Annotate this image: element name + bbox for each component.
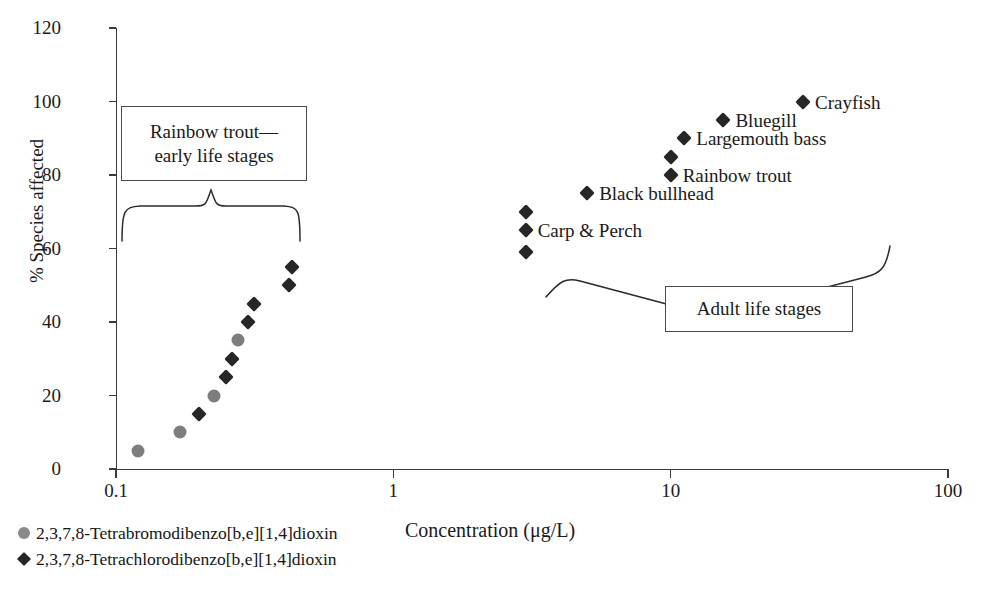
data-point-diamond: [518, 204, 534, 220]
y-axis-tick-mark: [109, 395, 116, 396]
data-point-diamond: [284, 259, 300, 275]
callout-early-life-stages: Rainbow trout— early life stages: [121, 106, 307, 181]
x-axis-tick-label: 100: [913, 481, 983, 501]
data-point-diamond: [241, 314, 257, 330]
species-label: Black bullhead: [599, 184, 714, 203]
species-label: Crayfish: [815, 92, 880, 111]
y-axis-title: % Species affected: [26, 96, 48, 326]
callout-early-line1: Rainbow trout—: [150, 120, 278, 144]
data-point-diamond: [579, 186, 595, 202]
callout-adult-life-stages: Adult life stages: [665, 286, 853, 332]
data-point-diamond: [219, 369, 235, 385]
data-point-diamond: [663, 167, 679, 183]
data-point-diamond: [795, 94, 811, 110]
species-label: Largemouth bass: [696, 129, 826, 148]
callout-adult-line1: Adult life stages: [697, 297, 822, 321]
data-point-circle: [231, 334, 244, 347]
x-axis-tick-label: 0.1: [81, 481, 151, 501]
data-point-diamond: [246, 296, 262, 312]
y-axis-tick-label: 20: [15, 386, 61, 405]
data-point-diamond: [192, 406, 208, 422]
legend-item: 2,3,7,8-Tetrabromodibenzo[b,e][1,4]dioxi…: [12, 520, 338, 546]
data-point-diamond: [518, 244, 534, 260]
x-axis-title: Concentration (μg/L): [405, 519, 575, 542]
data-point-circle: [131, 444, 144, 457]
x-axis-tick-mark: [393, 470, 394, 478]
y-axis-tick-label: 0: [15, 459, 61, 478]
y-axis-tick-label: 120: [15, 18, 61, 37]
legend-marker-circle-icon: [12, 527, 36, 539]
x-axis-tick-mark: [115, 470, 116, 478]
data-point-diamond: [224, 351, 240, 367]
data-point-diamond: [281, 277, 297, 293]
species-label: Rainbow trout: [683, 166, 792, 185]
x-axis-tick-label: 1: [358, 481, 428, 501]
y-axis-tick-mark: [109, 321, 116, 322]
y-axis-tick-mark: [109, 248, 116, 249]
legend-label: 2,3,7,8-Tetrabromodibenzo[b,e][1,4]dioxi…: [36, 523, 338, 543]
y-axis-tick-mark: [109, 27, 116, 28]
x-axis-tick-label: 10: [636, 481, 706, 501]
x-axis-tick-mark: [670, 470, 671, 478]
y-axis-tick-mark: [109, 101, 116, 102]
species-label: Carp & Perch: [538, 221, 642, 240]
data-point-circle: [173, 426, 186, 439]
data-point-circle: [207, 389, 220, 402]
x-axis-tick-mark: [947, 470, 948, 478]
chart-legend: 2,3,7,8-Tetrabromodibenzo[b,e][1,4]dioxi…: [12, 520, 338, 572]
x-axis-line: [116, 469, 949, 470]
species-label: Bluegill: [735, 110, 796, 129]
legend-marker-diamond-icon: [12, 554, 36, 564]
early-life-stages-brace-icon: [122, 190, 300, 241]
legend-label: 2,3,7,8-Tetrachlorodibenzo[b,e][1,4]diox…: [36, 549, 337, 569]
callout-early-line2: early life stages: [154, 144, 273, 168]
y-axis-tick-mark: [109, 174, 116, 175]
scatter-chart-figure: 020406080100120 0.1110100 % Species affe…: [0, 0, 991, 607]
legend-item: 2,3,7,8-Tetrachlorodibenzo[b,e][1,4]diox…: [12, 546, 338, 572]
data-point-diamond: [663, 149, 679, 165]
data-point-diamond: [716, 112, 732, 128]
data-point-diamond: [518, 222, 534, 238]
y-axis-line: [116, 28, 117, 470]
data-point-diamond: [677, 130, 693, 146]
